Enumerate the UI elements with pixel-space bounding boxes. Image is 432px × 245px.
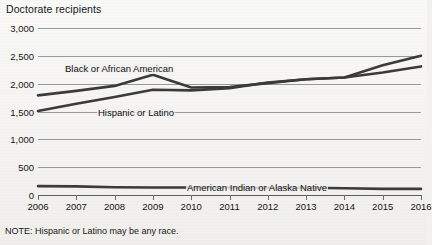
y-tick-label-1000: 1,000: [0, 134, 34, 145]
x-axis-tick-labels: 2006200720082009201020112012201320142015…: [0, 201, 427, 215]
x-tick-label-2008: 2008: [104, 201, 125, 212]
series-annotation-black-or-african-american: Black or African American: [64, 63, 174, 74]
x-tick-label-2014: 2014: [334, 201, 355, 212]
x-tick-label-2012: 2012: [257, 201, 278, 212]
y-tick-label-2500: 2,500: [0, 50, 34, 61]
x-tick-label-2009: 2009: [142, 201, 163, 212]
y-tick-label-0: 0: [0, 190, 34, 201]
x-tick-label-2013: 2013: [296, 201, 317, 212]
y-tick-label-2000: 2,000: [0, 78, 34, 89]
x-tick-label-2015: 2015: [372, 201, 393, 212]
x-tick-2011: [230, 195, 231, 200]
y-tick-label-3000: 3,000: [0, 23, 34, 34]
x-tick-2015: [383, 195, 384, 200]
series-lines-group: [38, 28, 421, 195]
x-tick-2009: [153, 195, 154, 200]
x-tick-2013: [306, 195, 307, 200]
x-tick-2010: [191, 195, 192, 200]
chart-axis-title: Doctorate recipients: [6, 3, 101, 15]
x-tick-label-2006: 2006: [27, 201, 48, 212]
x-tick-label-2010: 2010: [181, 201, 202, 212]
x-tick-2007: [76, 195, 77, 200]
x-tick-2008: [115, 195, 116, 200]
x-tick-label-2011: 2011: [219, 201, 239, 212]
x-tick-label-2007: 2007: [66, 201, 87, 212]
x-tick-2006: [38, 195, 39, 200]
chart-note: NOTE: Hispanic or Latino may be any race…: [5, 226, 179, 236]
x-tick-2014: [344, 195, 345, 200]
y-tick-label-1500: 1,500: [0, 106, 34, 117]
x-tick-2012: [268, 195, 269, 200]
y-axis-tick-labels: 05001,0001,5002,0002,5003,000: [0, 28, 34, 195]
plot-area: [38, 28, 421, 195]
x-tick-2016: [421, 195, 422, 200]
x-tick-label-2016: 2016: [410, 201, 431, 212]
series-annotation-hispanic-or-latino: Hispanic or Latino: [97, 107, 175, 118]
y-tick-label-500: 500: [0, 162, 34, 173]
series-annotation-american-indian-or-alaska-native: American Indian or Alaska Native: [186, 182, 328, 193]
